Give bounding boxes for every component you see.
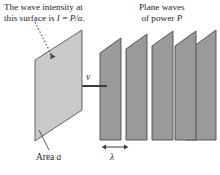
caption-intensity-line2-prefix: this surface is xyxy=(4,13,57,23)
absorbing-surface-plane xyxy=(35,30,82,141)
plane-wave-sheet-1 xyxy=(100,38,121,140)
caption-plane-waves-line1: Plane waves xyxy=(139,2,185,13)
label-area-prefix: Area xyxy=(36,152,57,162)
plane-wave-sheet-2 xyxy=(126,34,147,140)
label-wavelength: λ xyxy=(110,152,114,163)
plane-waves-diagram xyxy=(0,0,220,175)
expression-power-over-area: P/a xyxy=(70,13,83,23)
label-velocity: v xyxy=(86,72,90,83)
symbol-area-a: a xyxy=(57,152,62,162)
caption-intensity-equals: = xyxy=(60,13,70,23)
plane-wave-sheets xyxy=(100,30,216,140)
label-area: Area a xyxy=(36,152,61,163)
plane-wave-sheet-4 xyxy=(175,31,196,140)
plane-wave-sheet-3 xyxy=(152,31,173,140)
caption-plane-waves: Plane waves of power P xyxy=(139,2,185,24)
symbol-power-P: P xyxy=(177,13,183,23)
caption-intensity-line2: this surface is I = P/a. xyxy=(4,13,85,24)
caption-intensity: The wave intensity at this surface is I … xyxy=(4,2,85,24)
caption-intensity-period: . xyxy=(82,13,84,23)
caption-plane-waves-line2-prefix: of power xyxy=(141,13,176,23)
figure-container: The wave intensity at this surface is I … xyxy=(0,0,220,175)
caption-plane-waves-line2: of power P xyxy=(139,13,185,24)
caption-intensity-line1: The wave intensity at xyxy=(4,2,85,13)
